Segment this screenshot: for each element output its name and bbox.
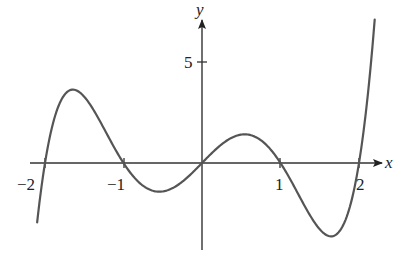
y-axis-label: y	[194, 0, 204, 19]
x-tick-label-neg1: −1	[107, 175, 125, 194]
x-axis-label: x	[384, 153, 393, 172]
x-tick-label-1: 1	[275, 175, 284, 194]
function-curve	[37, 20, 375, 237]
function-graph: −2 −1 1 2 5 x y	[0, 0, 398, 259]
y-tick-label-5: 5	[184, 53, 193, 72]
x-tick-label-neg2: −2	[17, 175, 35, 194]
